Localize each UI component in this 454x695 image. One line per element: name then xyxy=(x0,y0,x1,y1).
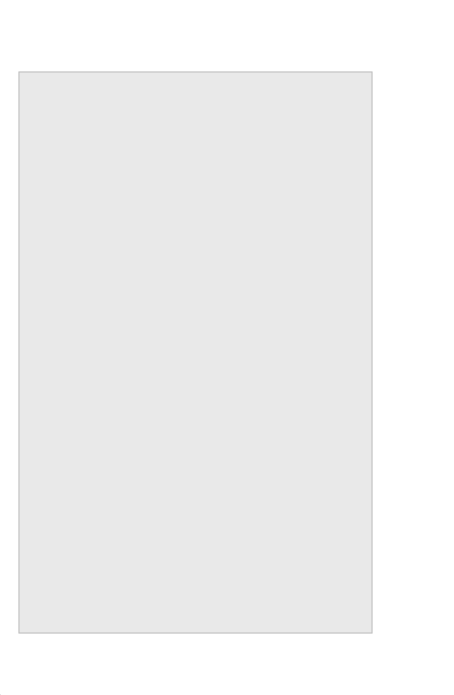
figure-page xyxy=(0,0,454,695)
y-axis-ticks xyxy=(18,637,370,695)
x-axis-001-ticks xyxy=(392,73,406,633)
plot-graphics xyxy=(19,72,371,632)
power-curve-plot xyxy=(18,71,372,633)
x-axis-005-ticks xyxy=(374,73,388,633)
rotated-sheet xyxy=(0,0,454,695)
